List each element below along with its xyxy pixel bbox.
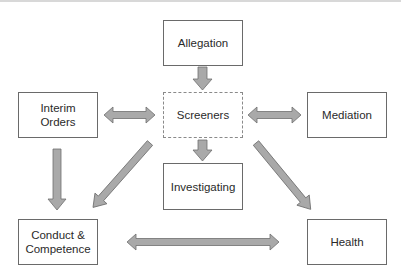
node-health-label: Health [330,235,363,249]
arrow-screeners-to-conduct [87,138,156,213]
node-screeners-label: Screeners [177,108,229,122]
node-interim-orders-label: Interim Orders [40,101,75,129]
node-allegation-label: Allegation [178,36,229,50]
node-conduct-competence: Conduct & Competence [18,219,98,265]
node-investigating: Investigating [163,163,243,210]
node-investigating-label: Investigating [171,180,236,194]
arrow-conduct-health-bidirectional [127,234,279,250]
arrow-screeners-mediation-bidirectional [248,107,301,123]
node-conduct-competence-label: Conduct & Competence [25,228,90,256]
node-allegation: Allegation [163,20,243,66]
node-interim-orders: Interim Orders [18,92,98,138]
node-mediation: Mediation [307,92,387,138]
arrow-interim-screeners-bidirectional [104,107,155,123]
node-screeners: Screeners [163,92,243,138]
arrow-screeners-to-health [250,138,317,215]
node-mediation-label: Mediation [322,108,372,122]
arrow-interim-to-conduct [48,149,66,210]
arrow-allegation-to-screeners [193,67,212,90]
node-health: Health [307,219,387,265]
arrow-screeners-to-investigating [193,140,212,161]
